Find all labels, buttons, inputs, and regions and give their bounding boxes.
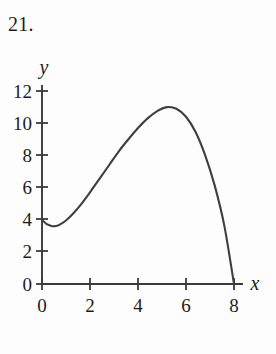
x-axis-tick-label-6: 6 bbox=[181, 295, 191, 316]
y-axis-tick-label-10: 10 bbox=[13, 113, 32, 134]
y-axis-title: y bbox=[38, 56, 49, 79]
y-axis-tick-label-4: 4 bbox=[23, 209, 33, 230]
y-axis-tick-label-8: 8 bbox=[23, 145, 33, 166]
x-axis-tick-label-0: 0 bbox=[37, 295, 47, 316]
function-curve bbox=[42, 107, 234, 284]
y-axis-tick-label-6: 6 bbox=[23, 177, 33, 198]
figure-container: 21. 12 10 8 6 4 2 0 y bbox=[0, 0, 276, 354]
y-axis-tick-label-2: 2 bbox=[23, 241, 33, 262]
y-axis-tick-label-0: 0 bbox=[23, 274, 33, 295]
x-axis-tick-label-2: 2 bbox=[85, 295, 95, 316]
x-axis-tick-label-4: 4 bbox=[133, 295, 143, 316]
x-axis-tick-label-8: 8 bbox=[229, 295, 239, 316]
y-axis-group: 12 10 8 6 4 2 0 y bbox=[13, 56, 49, 295]
plot-svg: 12 10 8 6 4 2 0 y 0 2 4 6 8 x bbox=[0, 0, 276, 354]
x-axis-title: x bbox=[250, 272, 260, 294]
y-axis-tick-label-12: 12 bbox=[13, 81, 32, 102]
x-axis-group: 0 2 4 6 8 x bbox=[37, 272, 259, 316]
